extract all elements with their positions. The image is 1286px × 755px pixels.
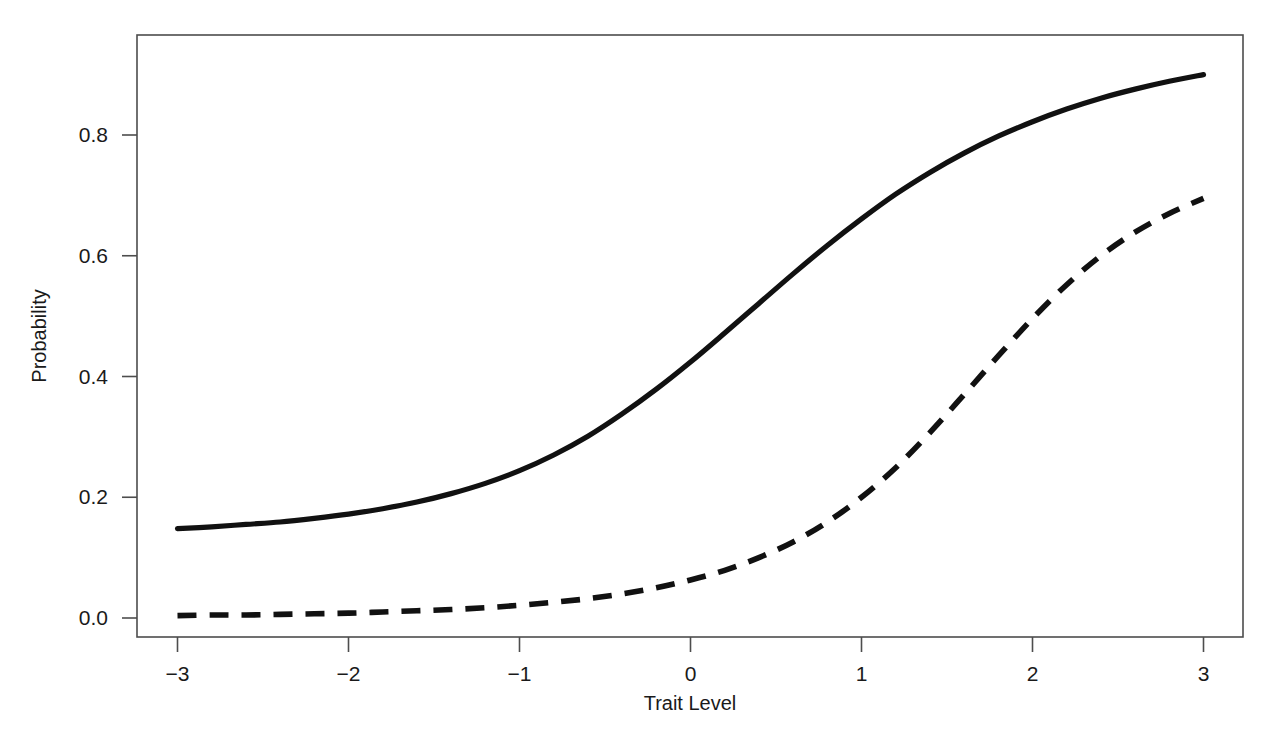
y-axis-title: Probability [28,289,50,382]
y-tick-label: 0.0 [79,606,108,629]
x-tick-label: 1 [856,662,868,685]
x-tick-label: −1 [508,662,532,685]
x-tick-label: −2 [337,662,361,685]
item-characteristic-curve-plot: −3−2−10123 0.00.20.40.60.8 Trait Level P… [0,0,1286,755]
y-axis-ticks [122,135,137,618]
chart-figure: −3−2−10123 0.00.20.40.60.8 Trait Level P… [0,0,1286,755]
dashed-curve [178,198,1204,615]
x-tick-label: 0 [685,662,697,685]
x-axis-tick-labels: −3−2−10123 [166,662,1210,685]
y-tick-label: 0.8 [79,123,108,146]
x-tick-label: −3 [166,662,190,685]
x-axis-title: Trait Level [644,692,737,714]
y-tick-label: 0.4 [79,365,109,388]
curve-group [178,75,1204,616]
x-tick-label: 3 [1198,662,1210,685]
y-axis-tick-labels: 0.00.20.40.60.8 [79,123,109,629]
x-axis-ticks [178,637,1204,652]
y-tick-label: 0.2 [79,485,108,508]
plot-box [137,35,1243,637]
y-tick-label: 0.6 [79,244,108,267]
x-tick-label: 2 [1027,662,1039,685]
plot-border [137,35,1243,637]
